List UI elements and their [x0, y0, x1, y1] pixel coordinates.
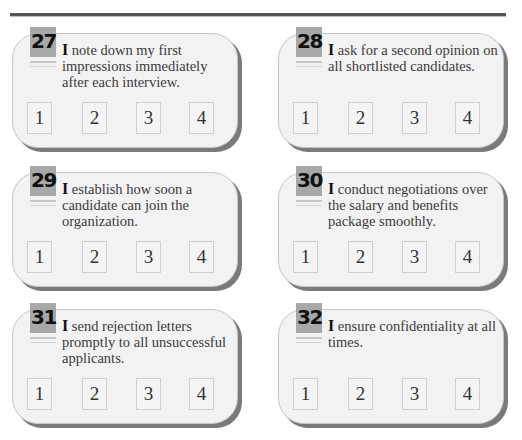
- question-number-badge: 29: [30, 166, 56, 196]
- rating-option-3[interactable]: 3: [136, 102, 161, 134]
- statement-text: conduct negotiations over the salary and…: [328, 181, 488, 229]
- question-statement: I conduct negotiations over the salary a…: [328, 181, 508, 229]
- question-card-29: 29 I establish how soon a candidate can …: [12, 172, 238, 287]
- badge-underline: [30, 200, 56, 206]
- rating-option-2[interactable]: 2: [82, 378, 107, 410]
- rating-option-4[interactable]: 4: [455, 378, 480, 410]
- question-number-badge: 31: [30, 303, 56, 333]
- rating-option-4[interactable]: 4: [455, 241, 480, 273]
- statement-text: note down my first impressions immediate…: [62, 42, 207, 90]
- rating-option-1[interactable]: 1: [27, 241, 52, 273]
- question-card-27: 27 I note down my first impressions imme…: [12, 33, 238, 148]
- rating-option-1[interactable]: 1: [293, 378, 318, 410]
- rating-option-2[interactable]: 2: [348, 102, 373, 134]
- statement-text: send rejection letters promptly to all u…: [62, 318, 226, 366]
- rating-option-3[interactable]: 3: [402, 102, 427, 134]
- rating-option-3[interactable]: 3: [136, 378, 161, 410]
- rating-option-4[interactable]: 4: [455, 102, 480, 134]
- statement-text: ensure confidentiality at all times.: [328, 318, 496, 350]
- rating-option-4[interactable]: 4: [189, 378, 214, 410]
- question-statement: I establish how soon a candidate can joi…: [62, 181, 237, 229]
- rating-option-2[interactable]: 2: [348, 241, 373, 273]
- badge-underline: [30, 337, 56, 343]
- rating-option-4[interactable]: 4: [189, 102, 214, 134]
- question-number-badge: 28: [296, 27, 322, 57]
- rating-option-3[interactable]: 3: [402, 378, 427, 410]
- question-number-badge: 27: [30, 27, 56, 57]
- question-statement: I ensure confidentiality at all times.: [328, 318, 503, 350]
- question-card-28: 28 I ask for a second opinion on all sho…: [278, 33, 504, 148]
- rating-option-3[interactable]: 3: [402, 241, 427, 273]
- badge-underline: [30, 61, 56, 67]
- question-number-badge: 30: [296, 166, 322, 196]
- rating-option-1[interactable]: 1: [293, 241, 318, 273]
- top-rule: [10, 13, 506, 16]
- question-card-32: 32 I ensure confidentiality at all times…: [278, 309, 504, 424]
- rating-option-1[interactable]: 1: [293, 102, 318, 134]
- question-card-31: 31 I send rejection letters promptly to …: [12, 309, 238, 424]
- question-statement: I send rejection letters promptly to all…: [62, 318, 237, 366]
- rating-option-2[interactable]: 2: [348, 378, 373, 410]
- badge-underline: [296, 61, 322, 67]
- question-statement: I note down my first impressions immedia…: [62, 42, 237, 90]
- rating-option-4[interactable]: 4: [189, 241, 214, 273]
- rating-option-1[interactable]: 1: [27, 378, 52, 410]
- statement-text: ask for a second opinion on all shortlis…: [328, 42, 498, 74]
- badge-underline: [296, 200, 322, 206]
- rating-option-1[interactable]: 1: [27, 102, 52, 134]
- question-statement: I ask for a second opinion on all shortl…: [328, 42, 503, 74]
- question-number-badge: 32: [296, 303, 322, 333]
- rating-option-2[interactable]: 2: [82, 102, 107, 134]
- badge-underline: [296, 337, 322, 343]
- statement-text: establish how soon a candidate can join …: [62, 181, 192, 229]
- rating-option-3[interactable]: 3: [136, 241, 161, 273]
- rating-option-2[interactable]: 2: [82, 241, 107, 273]
- question-card-30: 30 I conduct negotiations over the salar…: [278, 172, 504, 287]
